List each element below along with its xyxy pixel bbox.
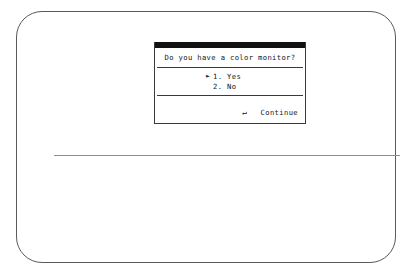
option-item-no[interactable]: ► 2. No (161, 82, 299, 92)
dialog-question-row: Do you have a color monitor? (155, 48, 305, 67)
screen-divider (54, 155, 400, 156)
option-label-yes: Yes (227, 72, 241, 81)
dialog-question-text: Do you have a color monitor? (161, 48, 299, 67)
option-item-yes[interactable]: ► 1. Yes (161, 72, 299, 82)
color-monitor-dialog: Do you have a color monitor? ► 1. Yes ► … (154, 42, 306, 124)
continue-button[interactable]: Continue (261, 108, 298, 118)
option-label-no: No (227, 82, 236, 91)
dialog-options-list: ► 1. Yes ► 2. No (155, 68, 305, 95)
option-number-yes: 1. (213, 72, 222, 81)
option-number-no: 2. (213, 82, 222, 91)
dialog-footer: ↵ Continue (155, 96, 305, 123)
selection-pointer-icon: ► (206, 72, 210, 82)
enter-key-icon: ↵ (242, 108, 247, 117)
crt-screen-bezel: Do you have a color monitor? ► 1. Yes ► … (16, 11, 396, 263)
